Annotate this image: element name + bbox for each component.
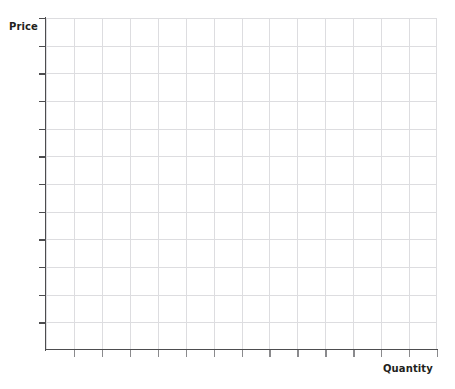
- gridline-horizontal: [46, 129, 437, 130]
- x-axis-tick: [269, 350, 270, 357]
- x-axis-tick: [214, 350, 215, 357]
- y-axis-tick: [39, 184, 46, 185]
- gridline-horizontal: [46, 18, 437, 19]
- x-axis-tick: [325, 350, 326, 357]
- x-axis-tick: [353, 350, 354, 357]
- y-axis-tick: [39, 73, 46, 74]
- plot-area: [46, 18, 437, 350]
- x-axis-tick: [381, 350, 382, 357]
- x-axis-tick: [186, 350, 187, 357]
- x-axis-tick: [130, 350, 131, 357]
- x-axis-tick: [74, 350, 75, 357]
- y-axis-tick: [39, 46, 46, 47]
- gridline-horizontal: [46, 46, 437, 47]
- gridline-horizontal: [46, 101, 437, 102]
- gridline-horizontal: [46, 212, 437, 213]
- y-axis-tick: [39, 129, 46, 130]
- gridline-horizontal: [46, 267, 437, 268]
- y-axis-tick: [39, 239, 46, 240]
- x-axis-tick: [409, 350, 410, 357]
- y-axis-tick: [39, 212, 46, 213]
- y-axis-label: Price: [9, 21, 38, 33]
- y-axis-tick: [39, 322, 46, 323]
- y-axis-tick: [39, 156, 46, 157]
- x-axis-tick: [158, 350, 159, 357]
- y-axis-tick: [39, 101, 46, 102]
- x-axis-label: Quantity: [383, 363, 433, 375]
- chart-figure: Price: [0, 0, 455, 389]
- x-axis-tick: [102, 350, 103, 357]
- gridline-horizontal: [46, 156, 437, 157]
- gridline-horizontal: [46, 239, 437, 240]
- gridline-horizontal: [46, 184, 437, 185]
- y-axis-tick: [39, 18, 46, 19]
- x-axis-tick: [437, 350, 438, 357]
- y-axis-tick: [39, 295, 46, 296]
- x-axis-tick: [242, 350, 243, 357]
- y-axis-tick: [39, 267, 46, 268]
- x-axis-tick: [297, 350, 298, 357]
- gridline-horizontal: [46, 322, 437, 323]
- gridline-horizontal: [46, 295, 437, 296]
- gridline-horizontal: [46, 73, 437, 74]
